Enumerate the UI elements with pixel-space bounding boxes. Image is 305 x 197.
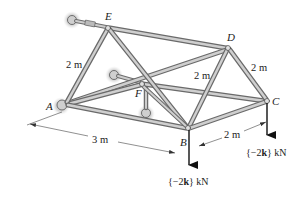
ext-line-A <box>27 112 62 125</box>
member-D-C <box>230 50 266 99</box>
load-label-B: {−2k} kN <box>168 176 209 187</box>
dim-BC: 2 m <box>224 129 240 140</box>
label-C: C <box>272 95 280 107</box>
member-E-D <box>110 28 226 48</box>
dim-line-BC-left <box>199 138 222 146</box>
support-E <box>63 11 106 29</box>
dim-line-AB-right <box>118 142 175 153</box>
label-F: F <box>134 87 142 99</box>
joint-F <box>140 82 145 87</box>
dim-AB: 3 m <box>92 134 108 145</box>
label-B: B <box>180 136 187 148</box>
dim-AE: 2 m <box>66 59 82 70</box>
dim-line-AB-left <box>30 124 88 136</box>
joint-B <box>186 126 191 131</box>
dim-DC: 2 m <box>251 62 267 73</box>
joint-E <box>106 26 111 31</box>
space-truss-diagram: E D F A B C 2 m 2 m 2 m 3 m 2 m {−2k} kN… <box>0 0 305 197</box>
label-E: E <box>104 10 112 22</box>
label-A: A <box>45 100 53 112</box>
load-label-C: {−2k} kN <box>246 147 287 158</box>
joint-C <box>265 99 270 104</box>
joint-D <box>226 46 231 51</box>
label-D: D <box>226 31 235 43</box>
truss-members <box>67 26 270 131</box>
member-A-F <box>68 85 140 104</box>
dim-line-BC-right <box>244 122 266 131</box>
dim-BD: 2 m <box>194 70 210 81</box>
